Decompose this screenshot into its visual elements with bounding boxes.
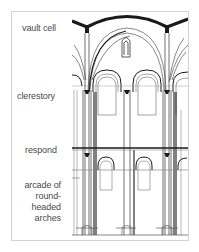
vault-window (122, 38, 130, 58)
vault-groin-heavy (89, 31, 126, 92)
vault-profile (72, 17, 188, 28)
nave-elevation-drawing (0, 0, 199, 252)
capitals (84, 90, 170, 157)
pier-shafts-heavy (94, 92, 176, 235)
pier-cap-right (165, 25, 169, 33)
vault-groins (72, 28, 188, 90)
pier-cap-left (85, 25, 89, 33)
